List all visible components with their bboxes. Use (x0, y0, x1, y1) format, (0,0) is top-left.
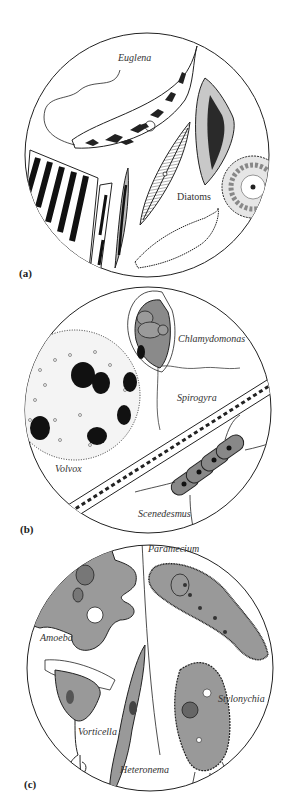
panel-a-illustration (0, 0, 288, 285)
label-stylonychia: Stylonychia (218, 693, 265, 704)
label-spirogyra: Spirogyra (177, 392, 217, 403)
label-paramecium: Paramecium (148, 543, 199, 554)
label-euglena: Euglena (118, 52, 151, 63)
label-scenedesmus: Scenedesmus (138, 508, 191, 519)
label-heteronema: Heteronema (120, 764, 169, 775)
panel-b-illustration (0, 270, 288, 540)
panel-c: Paramecium Amoeba Stylonychia Vorticella… (0, 540, 288, 809)
centric-diatom-drawing (222, 156, 284, 218)
label-volvox: Volvox (55, 463, 82, 474)
label-diatoms: Diatoms (177, 191, 211, 202)
label-amoeba: Amoeba (40, 632, 73, 643)
panel-b: Chlamydomonas Spirogyra Volvox Scenedesm… (0, 270, 288, 540)
panel-label-c: (c) (24, 778, 36, 790)
label-vorticella: Vorticella (78, 726, 117, 737)
panel-a: Euglena Diatoms (a) (0, 0, 288, 285)
volvox-drawing (10, 330, 140, 460)
label-chlamydomonas: Chlamydomonas (178, 333, 245, 344)
panel-label-b: (b) (20, 523, 33, 535)
